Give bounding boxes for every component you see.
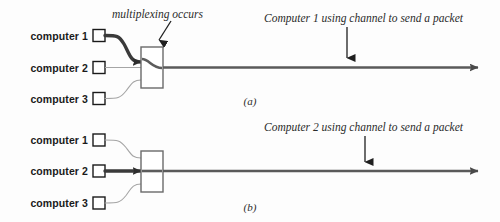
node-label-b-computer-2: computer 2 xyxy=(20,165,88,177)
figure-canvas: computer 1 computer 2 computer 3 multipl… xyxy=(0,0,500,222)
node-box-a-computer-1[interactable] xyxy=(93,30,105,42)
node-box-b-computer-3[interactable] xyxy=(93,197,105,209)
panel-b-graphics xyxy=(93,134,478,209)
node-box-b-computer-2[interactable] xyxy=(93,165,105,177)
node-label-a-computer-3: computer 3 xyxy=(20,93,88,105)
annotation-channel-usage-a: Computer 1 using channel to send a packe… xyxy=(264,12,463,24)
node-label-b-computer-3: computer 3 xyxy=(20,197,88,209)
node-box-a-computer-3[interactable] xyxy=(93,93,105,105)
node-box-a-computer-2[interactable] xyxy=(93,62,105,74)
node-box-b-computer-1[interactable] xyxy=(93,134,105,146)
panel-caption-b: (b) xyxy=(244,201,257,213)
node-label-a-computer-2: computer 2 xyxy=(20,62,88,74)
annotation-multiplexing-occurs: multiplexing occurs xyxy=(112,8,203,20)
link-b-computer-3-idle xyxy=(105,184,141,203)
annotation-channel-usage-b: Computer 2 using channel to send a packe… xyxy=(264,121,463,133)
node-label-b-computer-1: computer 1 xyxy=(20,134,88,146)
panel-caption-a: (a) xyxy=(244,95,257,107)
pointer-arrow-multiplexing-a xyxy=(159,21,171,40)
link-b-computer-1-idle xyxy=(105,140,141,158)
link-a-computer-3-idle xyxy=(105,80,141,99)
node-label-a-computer-1: computer 1 xyxy=(20,30,88,42)
panel-a-graphics xyxy=(93,21,478,105)
link-a-computer-1-active xyxy=(105,36,141,63)
